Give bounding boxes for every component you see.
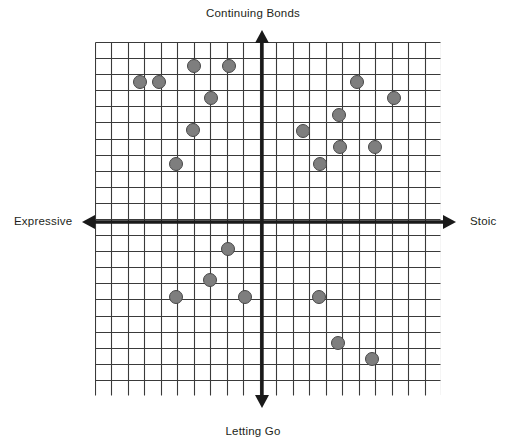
plot-area [95,42,441,396]
data-point [365,352,379,366]
axis-label-left: Expressive [14,215,72,227]
data-point [186,123,200,137]
data-point [152,75,166,89]
data-point [331,336,345,350]
data-point [187,59,201,73]
data-point [368,140,382,154]
axis-label-bottom: Letting Go [0,425,506,437]
quadrant-chart: Continuing Bonds Letting Go Expressive S… [0,0,506,443]
data-point [387,91,401,105]
axis-label-right: Stoic [470,215,497,227]
data-point [169,157,183,171]
data-point [296,124,310,138]
data-point [350,75,364,89]
data-point [203,273,217,287]
data-point [333,140,347,154]
data-point [204,91,218,105]
data-point [169,290,183,304]
data-point [221,242,235,256]
data-point [222,59,236,73]
data-point [312,290,326,304]
data-point [313,157,327,171]
data-point [238,290,252,304]
data-point [332,108,346,122]
axis-label-top: Continuing Bonds [0,7,506,19]
data-point [133,75,147,89]
